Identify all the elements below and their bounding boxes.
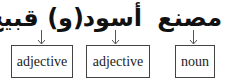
arabic-word: أسود [90, 4, 142, 32]
arabic-word: (و) قبيح [6, 4, 84, 32]
down-arrow-icon [111, 30, 120, 45]
down-arrow-icon [189, 30, 198, 45]
down-arrow-icon [37, 30, 46, 45]
pos-label-box: noun [175, 45, 215, 78]
pos-label-box: adjective [86, 45, 150, 78]
arabic-word: مصنع [170, 4, 222, 32]
pos-label-box: adjective [11, 45, 73, 78]
